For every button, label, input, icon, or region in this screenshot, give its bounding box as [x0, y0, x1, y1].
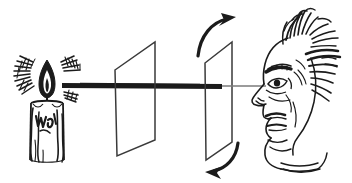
figure-canvas — [0, 0, 352, 183]
light-beam-bright — [62, 84, 222, 87]
polarization-figure — [0, 0, 352, 183]
